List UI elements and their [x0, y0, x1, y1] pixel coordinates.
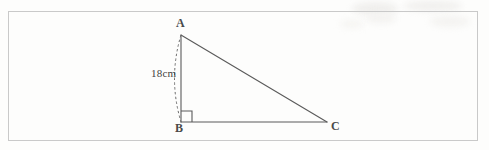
vertex-label-c: C [331, 120, 340, 132]
geometry-diagram [0, 0, 489, 150]
vertex-label-b: B [175, 122, 183, 134]
scanned-figure-page: A B C 18cm [0, 0, 489, 150]
vertex-label-a: A [176, 17, 185, 29]
measurement-label: 18cm [151, 67, 176, 79]
side-ac-line [181, 35, 327, 122]
triangle-sides [181, 35, 327, 122]
